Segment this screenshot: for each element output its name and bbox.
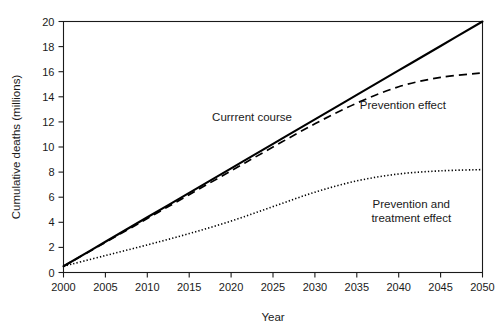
x-tick-label: 2010 <box>135 281 159 293</box>
x-tick-label: 2025 <box>261 281 285 293</box>
x-tick-label: 2040 <box>386 281 410 293</box>
annotation-label: Prevention effect <box>360 99 447 111</box>
y-tick-label: 0 <box>48 267 54 279</box>
y-tick-label: 6 <box>48 191 54 203</box>
y-tick-label: 10 <box>42 141 54 153</box>
y-tick-label: 14 <box>42 91 54 103</box>
y-tick-label: 16 <box>42 66 54 78</box>
x-tick-label: 2050 <box>470 281 494 293</box>
y-axis-title: Cumulative deaths (millions) <box>10 75 22 220</box>
x-tick-label: 2030 <box>303 281 327 293</box>
y-tick-label: 4 <box>48 216 54 228</box>
x-axis-title: Year <box>261 311 284 323</box>
y-tick-label: 8 <box>48 166 54 178</box>
y-tick-label: 12 <box>42 116 54 128</box>
annotation-label: treatment effect <box>371 212 451 224</box>
y-tick-label: 18 <box>42 41 54 53</box>
chart-page: 02468101214161820 2000200520102015202020… <box>0 0 503 332</box>
x-tick-label: 2015 <box>177 281 201 293</box>
cumulative-deaths-line-chart: 02468101214161820 2000200520102015202020… <box>0 0 503 332</box>
x-tick-label: 2020 <box>219 281 243 293</box>
y-tick-label: 20 <box>42 16 54 28</box>
y-tick-label: 2 <box>48 241 54 253</box>
x-tick-label: 2045 <box>428 281 452 293</box>
annotation-label: Currrent course <box>212 111 292 123</box>
x-tick-label: 2000 <box>51 281 75 293</box>
annotation-label: Prevention and <box>373 198 450 210</box>
x-tick-label: 2035 <box>345 281 369 293</box>
x-tick-label: 2005 <box>93 281 117 293</box>
